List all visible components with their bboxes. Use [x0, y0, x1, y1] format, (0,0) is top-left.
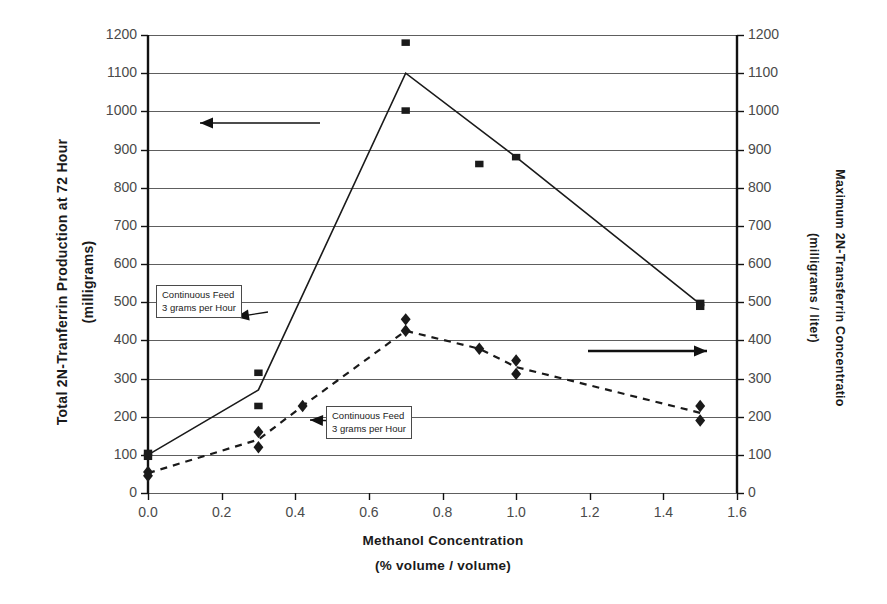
y-axis-right-tick-label: 700 — [748, 217, 798, 233]
x-axis-tick-label: 1.6 — [715, 504, 759, 520]
series-markers — [143, 39, 705, 482]
x-axis-tick-label: 1.4 — [641, 504, 685, 520]
x-axis-tick-label: 0.6 — [347, 504, 391, 520]
y-axis-right-tick-label: 800 — [748, 179, 798, 195]
marker-diamond — [298, 400, 308, 412]
marker-square — [512, 154, 520, 161]
y-axis-right-tick-label: 0 — [748, 484, 798, 500]
y-axis-right-tick-label: 300 — [748, 370, 798, 386]
y-axis-right-title-main: Maximum 2N-Transferrin Concentratio — [827, 53, 853, 523]
x-axis-title: Methanol Concentration (% volume / volum… — [148, 528, 738, 578]
marker-square — [401, 107, 409, 114]
arrow-to-left-axis-head — [200, 118, 213, 129]
y-axis-right-tick-label: 500 — [748, 293, 798, 309]
y-axis-left-title-units: (milligrams) — [75, 47, 101, 517]
marker-diamond — [253, 441, 263, 453]
y-axis-left-title-main: Total 2N-Tranferrin Production at 72 Hou… — [49, 47, 75, 517]
marker-diamond — [401, 325, 411, 337]
y-axis-right-tick-label: 200 — [748, 408, 798, 424]
annotation-callout-left-line1: Continuous Feed — [162, 289, 236, 302]
annotation-callout-left-line2: 3 grams per Hour — [162, 302, 236, 315]
x-axis-title-main: Methanol Concentration — [148, 528, 738, 553]
y-axis-right-tick-label: 1200 — [748, 26, 798, 42]
marker-diamond — [474, 343, 484, 355]
x-axis-tick-label: 0.4 — [273, 504, 317, 520]
y-axis-left-tick-label: 1200 — [87, 26, 137, 42]
y-axis-right-tick-label: 1000 — [748, 102, 798, 118]
chart-figure: 0100200300400500600700800900100011001200… — [0, 0, 887, 604]
marker-diamond — [695, 400, 705, 412]
x-axis-tick-label: 0.2 — [200, 504, 244, 520]
y-axis-left-title: Total 2N-Tranferrin Production at 72 Hou… — [49, 47, 101, 517]
gridlines — [148, 36, 737, 494]
x-axis-tick-label: 0.0 — [126, 504, 170, 520]
marker-diamond — [511, 368, 521, 380]
y-axis-right-tick-label: 900 — [748, 141, 798, 157]
x-axis-tick-label: 1.0 — [494, 504, 538, 520]
marker-square — [696, 303, 704, 310]
x-axis-title-units: (% volume / volume) — [148, 553, 738, 578]
marker-diamond — [695, 414, 705, 426]
series-lines — [148, 73, 700, 473]
marker-square — [401, 39, 409, 46]
y-axis-right-tick-label: 400 — [748, 331, 798, 347]
arrow-to-right-axis-head — [694, 346, 707, 357]
marker-square — [254, 403, 262, 410]
y-axis-right-title: Maximum 2N-Transferrin Concentratio (mil… — [801, 53, 853, 523]
y-axis-right-tick-label: 100 — [748, 446, 798, 462]
annotation-callout-right-series: Continuous Feed 3 grams per Hour — [326, 406, 412, 439]
annotation-callout-right-line2: 3 grams per Hour — [332, 423, 406, 436]
marker-diamond — [511, 354, 521, 366]
callout-right-leader-head — [310, 415, 323, 426]
x-axis-tick-label: 1.2 — [568, 504, 612, 520]
annotation-callout-right-line1: Continuous Feed — [332, 410, 406, 423]
marker-square — [254, 369, 262, 376]
y-axis-right-title-units: (milligrams / liter) — [801, 53, 827, 523]
y-axis-right-tick-label: 600 — [748, 255, 798, 271]
marker-square — [475, 161, 483, 168]
annotation-callout-left-series: Continuous Feed 3 grams per Hour — [156, 285, 242, 318]
marker-square — [144, 453, 152, 460]
marker-diamond — [401, 313, 411, 325]
x-axis-tick-label: 0.8 — [421, 504, 465, 520]
y-axis-right-tick-label: 1100 — [748, 64, 798, 80]
